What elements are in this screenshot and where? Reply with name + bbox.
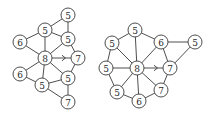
- node-label: 6: [17, 38, 23, 48]
- node-label: 5: [42, 26, 48, 36]
- node-label: 8: [134, 64, 140, 74]
- graph-node: 5: [128, 23, 142, 37]
- graph-node: 7: [163, 61, 177, 75]
- node-label: 5: [65, 35, 71, 45]
- node-label: 7: [158, 86, 164, 96]
- graph-node: 5: [61, 32, 75, 46]
- graph-node: 6: [13, 67, 27, 81]
- node-label: 5: [132, 26, 138, 36]
- graph-node: 5: [188, 35, 202, 49]
- node-label: 7: [65, 98, 71, 108]
- node-label: 5: [39, 81, 45, 91]
- node-label: 6: [17, 70, 23, 80]
- node-label: 8: [42, 54, 48, 64]
- graph-node: 8: [130, 61, 144, 75]
- graph-node: 5: [35, 78, 49, 92]
- graph-node: 5: [99, 61, 113, 75]
- node-label: 5: [65, 11, 71, 21]
- graph-node: 6: [13, 35, 27, 49]
- node-label: 5: [114, 88, 120, 98]
- graph-node: 5: [38, 23, 52, 37]
- graph-node: 5: [105, 36, 119, 50]
- node-label: 5: [192, 38, 198, 48]
- graph-node: 5: [110, 85, 124, 99]
- node-label: 6: [136, 97, 142, 107]
- node-label: 7: [75, 54, 81, 64]
- node-label: 5: [103, 64, 109, 74]
- graph-diagram: 5565876557 5565587567: [0, 0, 214, 119]
- node-label: 5: [109, 39, 115, 49]
- node-label: 6: [158, 38, 164, 48]
- left-graph: 5565876557: [13, 8, 85, 109]
- node-label: 5: [65, 74, 71, 84]
- graph-node: 8: [38, 51, 52, 65]
- left-graph-nodes: 5565876557: [13, 8, 85, 109]
- node-label: 7: [167, 64, 173, 74]
- graph-node: 5: [61, 71, 75, 85]
- graph-node: 7: [154, 83, 168, 97]
- graph-node: 5: [61, 8, 75, 22]
- right-graph: 5565587567: [99, 23, 202, 108]
- graph-node: 7: [71, 51, 85, 65]
- graph-node: 6: [132, 94, 146, 108]
- graph-node: 7: [61, 95, 75, 109]
- graph-node: 6: [154, 35, 168, 49]
